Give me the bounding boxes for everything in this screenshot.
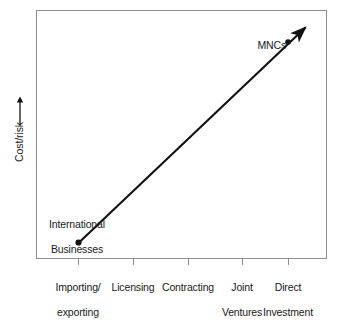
x-axis-label-direct-investment: Direct Investment <box>238 268 338 322</box>
annotation-mncs: MNCs <box>242 26 286 64</box>
annotation-international-businesses: International Businesses <box>34 205 120 268</box>
annotation-line-2: Businesses <box>34 243 120 256</box>
x-axis-tick-5 <box>288 259 289 265</box>
y-axis-label-group: Cost/risk <box>2 96 36 200</box>
x-axis-label-line-1: Direct <box>238 281 338 294</box>
x-axis-tick-3 <box>188 259 189 265</box>
x-axis-tick-2 <box>133 259 134 265</box>
x-axis-tick-4 <box>242 259 243 265</box>
x-axis-label-line-2: Investment <box>238 306 338 319</box>
annotation-line-1: International <box>34 218 120 231</box>
annotation-line-1: MNCs <box>242 39 286 52</box>
y-axis-label: Cost/risk <box>13 106 25 178</box>
